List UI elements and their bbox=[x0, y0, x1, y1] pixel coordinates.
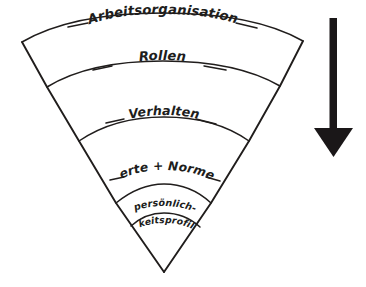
band-arc-verhalten bbox=[79, 117, 249, 141]
cone-right-edge bbox=[164, 41, 303, 272]
band-arc-arbeitsorganisation bbox=[22, 13, 303, 42]
label-dash-left-1 bbox=[68, 23, 88, 27]
funnel-diagram: Arbeitsorganisation Rollen Verhalten Wer… bbox=[0, 0, 366, 287]
band-label-werte-normen: Werte + Normen bbox=[0, 0, 217, 183]
band-label-arbeitsorganisation: Arbeitsorganisation bbox=[85, 2, 240, 27]
label-dash-right-1 bbox=[236, 23, 257, 28]
diagram-canvas: Arbeitsorganisation Rollen Verhalten Wer… bbox=[0, 0, 366, 287]
arrow-shaft bbox=[330, 18, 338, 132]
cone-left-edge bbox=[22, 42, 164, 272]
band-label-verhalten: Verhalten bbox=[127, 103, 201, 122]
label-dash-right-3 bbox=[196, 119, 216, 124]
band-arc-rollen bbox=[47, 61, 280, 87]
band-label-persoenlich-line1: persönlich- bbox=[131, 197, 198, 214]
direction-arrow-down bbox=[314, 18, 353, 157]
band-label-rollen: Rollen bbox=[138, 48, 187, 64]
band-label-keitsprofil-line2: keitsprofil bbox=[137, 214, 197, 231]
arrow-head-icon bbox=[314, 128, 353, 157]
